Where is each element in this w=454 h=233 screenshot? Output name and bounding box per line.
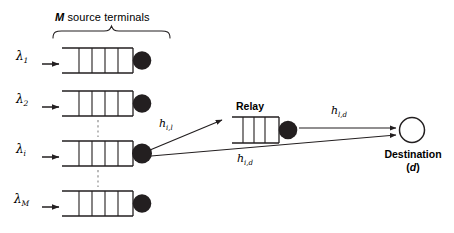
lambda-2-symbol: λ — [16, 92, 24, 106]
source-queue-1 — [42, 48, 151, 73]
channel-h-i-l-label: hi,l — [159, 118, 173, 132]
relay-node — [279, 121, 298, 140]
diagram-graphics — [0, 0, 454, 233]
destination-sublabel-close: ) — [416, 161, 420, 173]
destination-node — [400, 118, 425, 143]
relay-queue — [232, 117, 297, 143]
figure-title: M source terminals — [55, 12, 150, 23]
source-queue-i — [42, 141, 152, 166]
channel-h-i-d-label: hi,d — [237, 153, 253, 167]
source-node-1 — [133, 51, 152, 70]
h-l-d-subscript: l,d — [338, 111, 347, 119]
channel-h-l-d-label: hl,d — [331, 105, 347, 119]
source-node-2 — [133, 94, 152, 113]
h-i-d-subscript: i,d — [244, 159, 253, 167]
destination-sublabel: (d) — [374, 162, 452, 173]
figure-title-italic: M — [55, 11, 64, 23]
lambda-2-subscript: 2 — [24, 99, 29, 108]
destination-label: Destination — [374, 149, 452, 160]
lambda-1-symbol: λ — [16, 49, 24, 63]
link-source-to-destination — [151, 135, 396, 156]
h-i-l-subscript: i,l — [166, 124, 173, 132]
lambda-M-label: λM — [14, 193, 29, 208]
figure-title-rest: source terminals — [64, 11, 149, 23]
lambda-2-label: λ2 — [16, 93, 28, 108]
relay-label: Relay — [236, 101, 264, 112]
lambda-1-subscript: 1 — [24, 56, 29, 65]
source-terminals-brace — [53, 26, 170, 38]
source-queue-M — [42, 191, 151, 216]
lambda-i-symbol: λ — [16, 142, 24, 156]
figure-canvas: M source terminals λ1 λ2 λi λM hi,l hl,d… — [0, 0, 454, 233]
lambda-i-subscript: i — [24, 149, 26, 158]
lambda-M-subscript: M — [22, 199, 30, 208]
lambda-M-symbol: λ — [14, 192, 22, 206]
lambda-i-label: λi — [16, 143, 26, 158]
source-node-i — [132, 144, 152, 164]
source-queue-2 — [42, 91, 151, 116]
source-node-M — [133, 194, 152, 213]
lambda-1-label: λ1 — [16, 50, 28, 65]
